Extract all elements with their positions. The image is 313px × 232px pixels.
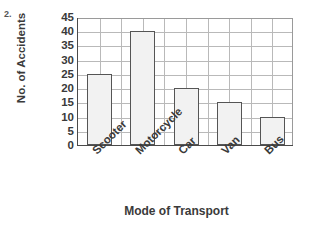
question-number: 2. [4,9,12,19]
x-axis-title: Mode of Transport [0,204,313,218]
y-tick-label-35: 35 [52,41,74,53]
y-tick-label-45: 45 [52,12,74,24]
x-axis-tick-labels: ScooterMotorcycleCarVanBus [77,148,293,198]
y-axis-tick-labels: 454035302520151050 [52,12,74,152]
y-tick-label-20: 20 [52,83,74,95]
bar-chart-figure: 2. No. of Accidents 454035302520151050 S… [0,0,313,232]
y-tick-label-25: 25 [52,69,74,81]
y-tick-label-30: 30 [52,55,74,67]
y-axis-title: No. of Accidents [15,8,27,108]
y-tick-label-0: 0 [52,140,74,152]
y-tick-label-5: 5 [52,126,74,138]
y-tick-label-40: 40 [52,26,74,38]
y-tick-label-10: 10 [52,112,74,124]
y-tick-label-15: 15 [52,98,74,110]
